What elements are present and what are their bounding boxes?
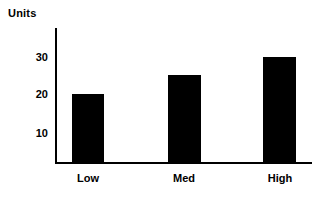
- y-axis-tick-label-30: 30: [18, 51, 48, 63]
- bar-high: [263, 57, 296, 162]
- plot-area: 30 20 10 Low Med High: [0, 0, 328, 197]
- x-axis-line: [55, 162, 312, 164]
- bar-med: [168, 75, 201, 162]
- y-axis-tick-label-20: 20: [18, 88, 48, 100]
- y-axis-line: [55, 28, 57, 163]
- x-axis-tick-label-low: Low: [77, 172, 99, 185]
- bar-low: [72, 94, 104, 162]
- bar-chart: Units 30 20 10 Low Med High: [0, 0, 328, 197]
- x-axis-tick-label-med: Med: [173, 172, 195, 185]
- x-axis-tick-label-high: High: [268, 172, 292, 185]
- y-axis-tick-label-10: 10: [18, 127, 48, 139]
